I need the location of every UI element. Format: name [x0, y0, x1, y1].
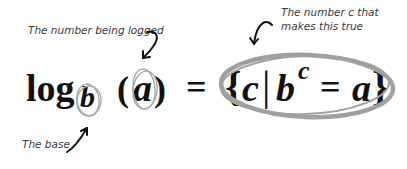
annotation-overlay: [0, 0, 407, 169]
arrow-to-set-icon: [250, 22, 272, 44]
arrow-to-base-icon: [67, 128, 87, 152]
base-circle: [75, 83, 103, 118]
argument-circle: [131, 68, 159, 110]
set-circle: [220, 52, 394, 120]
arrow-to-argument-icon: [143, 32, 157, 58]
